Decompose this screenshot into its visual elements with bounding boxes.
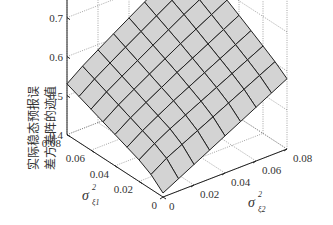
x-axis-label: σ 2 ξ1 — [82, 183, 99, 207]
tick-label: 0.7 — [49, 12, 63, 24]
tick-label: 0.6 — [49, 51, 63, 63]
tick-label: 0 — [169, 200, 175, 212]
svg-text:ξ2: ξ2 — [258, 205, 265, 214]
surface-mesh — [67, 0, 287, 193]
tick-label: 0.02 — [114, 183, 133, 195]
svg-text:2: 2 — [258, 190, 262, 199]
svg-text:ξ1: ξ1 — [92, 198, 99, 207]
y-axis-label: σ 2 ξ2 — [248, 190, 265, 214]
tick-label: 0.06 — [262, 164, 282, 176]
tick-label: 0 — [152, 199, 158, 211]
tick-label: 0.04 — [231, 176, 251, 188]
z-axis-label-line1: 实际稳态预报误 — [26, 86, 41, 170]
z-axis-label-line2: 差方差阵的迹值 — [43, 86, 58, 170]
tick-label: 0.02 — [200, 188, 219, 200]
svg-text:σ: σ — [82, 188, 90, 203]
tick-label: 0.08 — [293, 152, 313, 164]
tick-label: 0.06 — [66, 152, 86, 164]
tick-label: 0.04 — [90, 168, 110, 180]
svg-text:σ: σ — [248, 195, 256, 210]
svg-text:2: 2 — [92, 183, 96, 192]
surface-plot: 00.020.040.060.0800.020.040.060.080.40.5… — [0, 0, 333, 225]
